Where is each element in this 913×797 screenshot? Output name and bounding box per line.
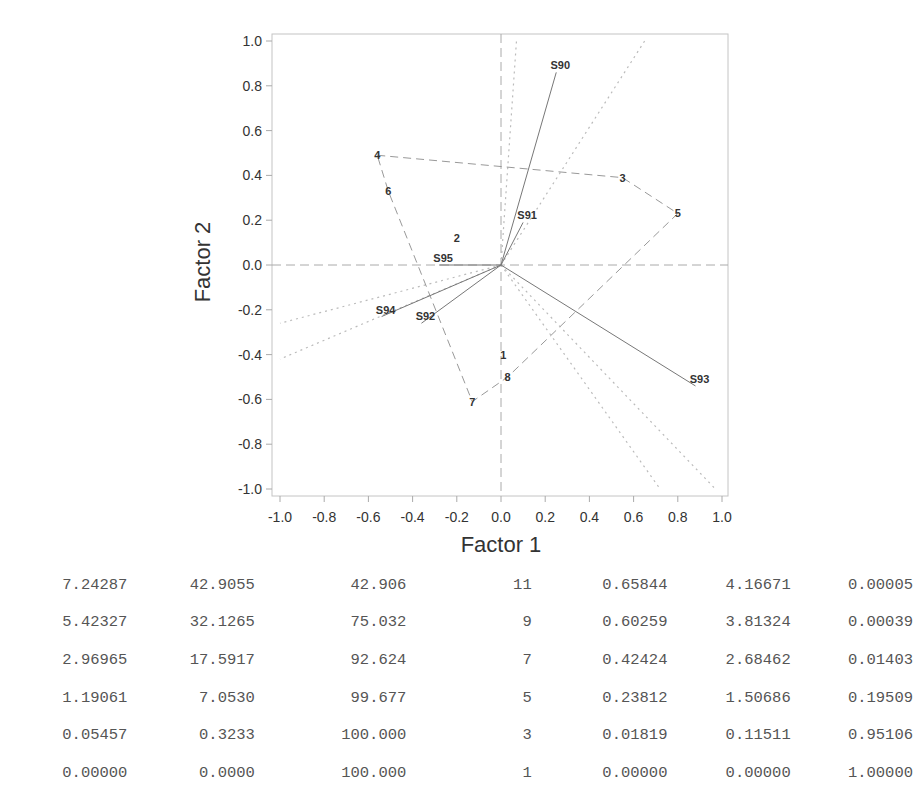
x-tick-label: -0.2 (445, 509, 469, 525)
x-tick-label: 1.0 (712, 509, 732, 525)
x-tick-label: 0.2 (535, 509, 555, 525)
observation-label: 8 (505, 371, 511, 383)
table-cell: 0.60259 (532, 604, 668, 642)
biplot-chart: 1.00.80.60.40.20.0-0.2-0.4-0.6-0.8-1.0 -… (0, 0, 913, 560)
table-cell: 2.96965 (0, 641, 127, 679)
y-tick-label: -0.6 (238, 391, 262, 407)
observation-label: 3 (619, 172, 625, 184)
table-cell: 17.5917 (127, 641, 254, 679)
table-row: 2.9696517.591792.62470.424242.684620.014… (0, 641, 913, 679)
vector-label: S93 (690, 373, 710, 385)
y-axis-title: Factor 2 (190, 222, 215, 303)
vector-label: S91 (517, 209, 537, 221)
table-cell: 99.677 (255, 679, 406, 717)
table-cell: 11 (406, 566, 531, 604)
observation-points: 12345678 (374, 149, 681, 407)
table-row: 1.190617.053099.67750.238121.506860.1950… (0, 679, 913, 717)
table-cell: 0.95106 (791, 716, 913, 754)
table-cell: 1.50686 (667, 679, 790, 717)
dotted-ray (501, 265, 660, 489)
table-cell: 3 (406, 716, 531, 754)
hull-polyline (377, 155, 678, 401)
table-cell: 0.01403 (791, 641, 913, 679)
observation-hull (377, 155, 678, 401)
y-tick-label: 0.0 (243, 257, 263, 273)
dotted-ray (501, 41, 645, 265)
y-tick-label: 0.2 (243, 212, 263, 228)
observation-label: 6 (385, 185, 391, 197)
table-cell: 7.0530 (127, 679, 254, 717)
table-cell: 0.19509 (791, 679, 913, 717)
vector-label: S95 (433, 252, 453, 264)
variable-vectors: S90S91S92S93S94S95 (376, 59, 709, 386)
table-cell: 0.42424 (532, 641, 668, 679)
dotted-ray (501, 41, 516, 265)
table-cell: 1 (406, 754, 531, 792)
y-tick-label: 0.6 (243, 123, 263, 139)
x-axis-title: Factor 1 (461, 532, 542, 557)
observation-label: 4 (374, 149, 381, 161)
table-cell: 0.23812 (532, 679, 668, 717)
table-cell: 0.00000 (0, 754, 127, 792)
table-cell: 7 (406, 641, 531, 679)
x-tick-label: -0.8 (312, 509, 336, 525)
observation-label: 5 (675, 207, 681, 219)
table-cell: 0.01819 (532, 716, 668, 754)
vector-line (501, 72, 556, 265)
x-tick-label: 0.8 (668, 509, 688, 525)
vector-label: S90 (550, 59, 570, 71)
y-tick-label: 0.8 (243, 78, 263, 94)
table-cell: 3.81324 (667, 604, 790, 642)
table-row: 7.2428742.905542.906110.658444.166710.00… (0, 566, 913, 604)
table-cell: 2.68462 (667, 641, 790, 679)
vector-label: S94 (376, 304, 396, 316)
x-tick-label: -0.4 (401, 509, 425, 525)
table-cell: 92.624 (255, 641, 406, 679)
x-tick-label: 0.4 (580, 509, 600, 525)
table-cell: 7.24287 (0, 566, 127, 604)
table-cell: 0.00005 (791, 566, 913, 604)
observation-label: 2 (454, 232, 460, 244)
vector-line (501, 222, 523, 265)
table-cell: 0.05457 (0, 716, 127, 754)
table-row: 5.4232732.126575.03290.602593.813240.000… (0, 604, 913, 642)
x-tick-label: -1.0 (268, 509, 292, 525)
dotted-ray (501, 265, 715, 489)
table-cell: 0.00039 (791, 604, 913, 642)
table-cell: 0.11511 (667, 716, 790, 754)
y-axis: 1.00.80.60.40.20.0-0.2-0.4-0.6-0.8-1.0 (238, 33, 272, 497)
table-row: 0.000000.0000100.00010.000000.000001.000… (0, 754, 913, 792)
table-cell: 42.9055 (127, 566, 254, 604)
table-cell: 5.42327 (0, 604, 127, 642)
observation-label: 7 (469, 396, 475, 408)
y-tick-label: -1.0 (238, 481, 262, 497)
table-cell: 0.00000 (532, 754, 668, 792)
y-tick-label: -0.4 (238, 347, 262, 363)
x-axis: -1.0-0.8-0.6-0.4-0.20.00.20.40.60.81.0 (268, 496, 732, 525)
x-tick-label: 0.0 (491, 509, 511, 525)
table-cell: 32.1265 (127, 604, 254, 642)
table-cell: 100.000 (255, 716, 406, 754)
table-row: 0.054570.3233100.00030.018190.115110.951… (0, 716, 913, 754)
x-tick-label: -0.6 (356, 509, 380, 525)
y-tick-label: 0.4 (243, 167, 263, 183)
vector-label: S92 (416, 310, 436, 322)
x-tick-label: 0.6 (624, 509, 644, 525)
table-cell: 75.032 (255, 604, 406, 642)
y-tick-label: 1.0 (243, 33, 263, 49)
table-cell: 0.00000 (667, 754, 790, 792)
table-cell: 5 (406, 679, 531, 717)
table-cell: 0.65844 (532, 566, 668, 604)
vector-line (501, 265, 695, 386)
table-cell: 0.3233 (127, 716, 254, 754)
y-tick-label: -0.8 (238, 436, 262, 452)
table-cell: 0.0000 (127, 754, 254, 792)
eigenvalue-table: 7.2428742.905542.906110.658444.166710.00… (0, 566, 913, 792)
table-cell: 100.000 (255, 754, 406, 792)
table-cell: 9 (406, 604, 531, 642)
table-cell: 42.906 (255, 566, 406, 604)
table-cell: 1.19061 (0, 679, 127, 717)
y-tick-label: -0.2 (238, 302, 262, 318)
table-cell: 1.00000 (791, 754, 913, 792)
table-cell: 4.16671 (667, 566, 790, 604)
